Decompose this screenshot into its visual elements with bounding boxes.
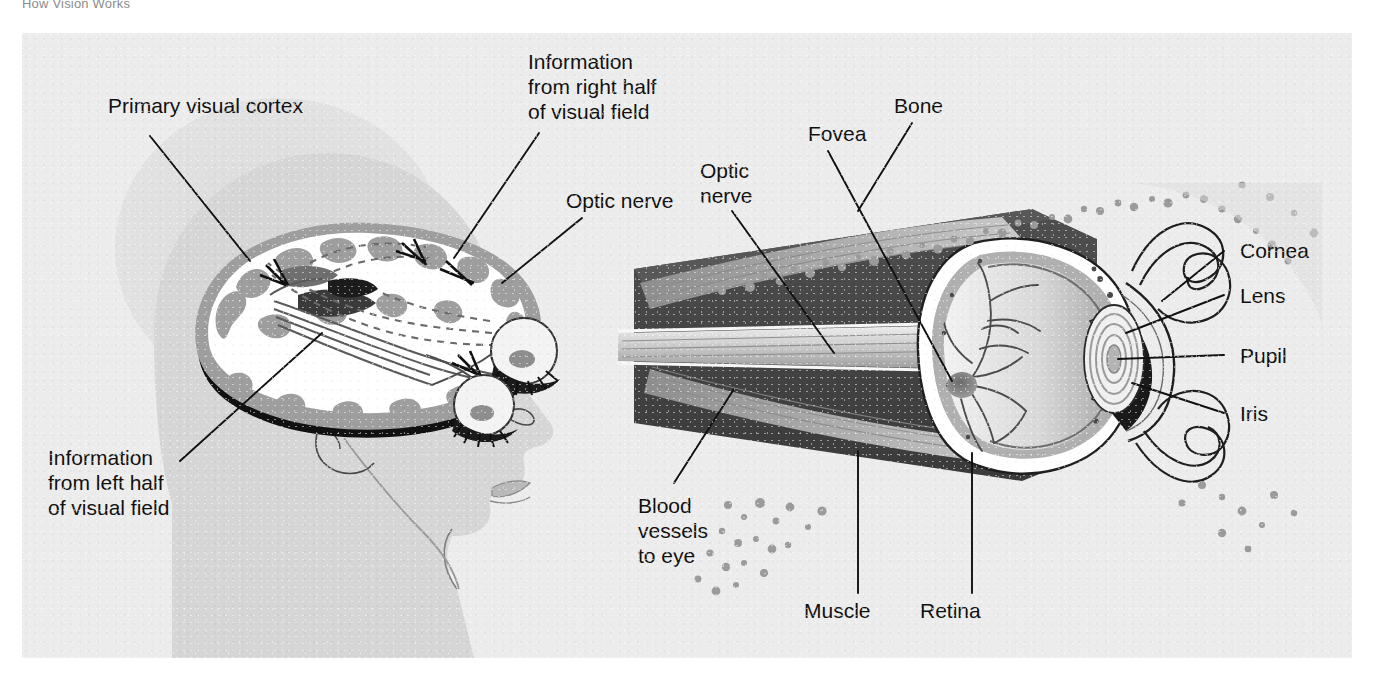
eyelid-lower (1136, 391, 1229, 482)
fovea-spot (947, 372, 977, 398)
brain-cross-section (195, 223, 560, 447)
label-muscle: Muscle (804, 598, 871, 623)
eye-cross-section (618, 181, 1322, 595)
figure-canvas: Primary visual cortex Information from r… (22, 33, 1352, 658)
label-blood-line3: to eye (638, 543, 695, 568)
leader-optic-nerve-brain (502, 218, 582, 283)
label-retina: Retina (920, 598, 981, 623)
label-optic-nerve-eye-line1: Optic (700, 158, 749, 183)
label-info-left-line2: from left half (48, 470, 164, 495)
label-info-right-line3: of visual field (528, 99, 649, 124)
label-bone: Bone (894, 93, 943, 118)
label-optic-nerve-brain: Optic nerve (566, 188, 673, 213)
label-info-left-line1: Information (48, 445, 153, 470)
label-cornea: Cornea (1240, 238, 1309, 263)
leader-info-right (454, 133, 539, 258)
label-blood-line1: Blood (638, 493, 692, 518)
eyelid-upper (1132, 223, 1230, 322)
label-pupil: Pupil (1240, 343, 1287, 368)
figure-caption: How Vision Works (22, 0, 130, 11)
label-lens: Lens (1240, 283, 1286, 308)
label-primary-visual-cortex: Primary visual cortex (108, 93, 303, 118)
label-info-left-line3: of visual field (48, 495, 169, 520)
bone-speckles-lower (695, 481, 1298, 595)
label-fovea: Fovea (808, 121, 866, 146)
left-eye-small (452, 375, 518, 447)
label-optic-nerve-eye-line2: nerve (700, 183, 753, 208)
label-info-right-line2: from right half (528, 74, 656, 99)
leader-cornea (1162, 251, 1224, 301)
label-info-right-line1: Information (528, 49, 633, 74)
figure-page: How Vision Works (0, 0, 1374, 690)
label-iris: Iris (1240, 401, 1268, 426)
label-blood-line2: vessels (638, 518, 708, 543)
leader-lens (1126, 295, 1224, 333)
